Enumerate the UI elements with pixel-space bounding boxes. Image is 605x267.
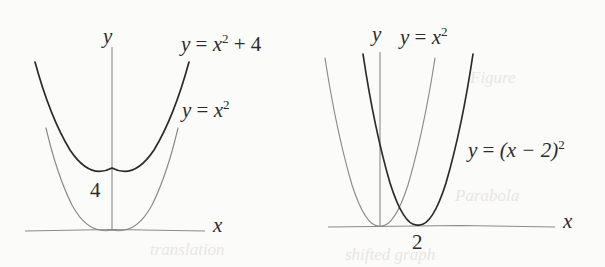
label-lhs: y: [400, 25, 409, 49]
label-lhs: y: [182, 98, 191, 122]
label-base: x: [213, 32, 222, 56]
x-axis-label: x: [213, 215, 222, 236]
label-lhs: y: [468, 138, 477, 162]
label-exponent: 2: [441, 24, 448, 39]
y-axis-label: y: [372, 24, 381, 45]
parabola-transformations-figure: Figure Parabola translation shifted grap…: [0, 0, 605, 267]
curve-label-y-equals-x-squared: y = x2: [400, 27, 448, 48]
label-base: x: [432, 25, 441, 49]
panel-horizontal-shift: y x 2 y = x2 y = (x − 2)2: [300, 0, 605, 267]
label-exponent: 2: [223, 97, 230, 112]
curve-label-y-equals-x-squared-plus-4: y = x2 + 4: [181, 34, 261, 55]
tick-label-2: 2: [412, 232, 423, 253]
label-base: (x − 2): [500, 138, 558, 162]
curve-label-y-equals-x-minus-2-squared: y = (x − 2)2: [468, 140, 565, 161]
label-tail: + 4: [234, 32, 262, 56]
panel-vertical-shift: y x 4 y = x2 + 4 y = x2: [0, 0, 300, 267]
tick-label-4: 4: [90, 180, 101, 201]
curve-label-y-equals-x-squared: y = x2: [182, 100, 230, 121]
label-equals: =: [196, 32, 208, 56]
y-axis-label: y: [103, 26, 112, 47]
label-exponent: 2: [558, 137, 565, 152]
x-axis-label: x: [563, 211, 572, 232]
x-axis: [328, 226, 555, 228]
label-equals: =: [197, 98, 209, 122]
label-lhs: y: [181, 32, 190, 56]
label-equals: =: [483, 138, 495, 162]
label-equals: =: [415, 25, 427, 49]
label-base: x: [214, 98, 223, 122]
